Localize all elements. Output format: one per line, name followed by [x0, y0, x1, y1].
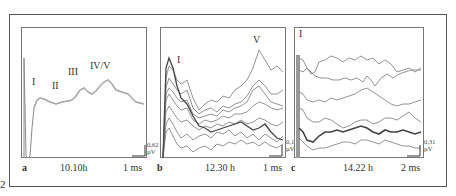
wave-label-V: V: [253, 34, 260, 45]
figure-number: 2: [0, 178, 6, 190]
panel-a-traces: [22, 28, 148, 159]
wave-label-II: II: [52, 80, 59, 91]
panel-b-label: b: [157, 162, 163, 173]
panel-a-plot: I II III IV/V: [21, 27, 147, 158]
panel-a-label: a: [22, 162, 27, 173]
wave-label-I: I: [299, 28, 302, 39]
amp-unit: µV: [147, 148, 158, 155]
panel-c-plot: I: [294, 27, 424, 158]
panel-c-time: 14.22 h: [343, 162, 373, 173]
panel-b-time-scale: 1 ms: [263, 162, 282, 173]
panel-c-amp-scale: 0,31 µV: [424, 138, 435, 152]
wave-label-I: I: [177, 54, 180, 65]
panel-b-traces: [161, 28, 287, 159]
panel-c-traces: [295, 28, 425, 159]
wave-label-IV-V: IV/V: [90, 60, 111, 71]
amp-value: 0,31: [424, 138, 435, 145]
wave-label-III: III: [68, 66, 78, 77]
panel-c-time-scale: 2 ms: [401, 162, 420, 173]
amp-unit: µV: [424, 145, 435, 152]
panel-b-time: 12.30 h: [205, 162, 235, 173]
panel-c-label: c: [291, 162, 295, 173]
panel-a-amp-scale: 0,62 µV: [147, 141, 158, 155]
panel-a-time-scale: 1 ms: [123, 162, 142, 173]
wave-label-I: I: [32, 76, 35, 87]
panel-b-plot: I V: [160, 27, 286, 158]
panel-a-time: 10.10h: [60, 162, 88, 173]
amp-value: 0,62: [147, 141, 158, 148]
